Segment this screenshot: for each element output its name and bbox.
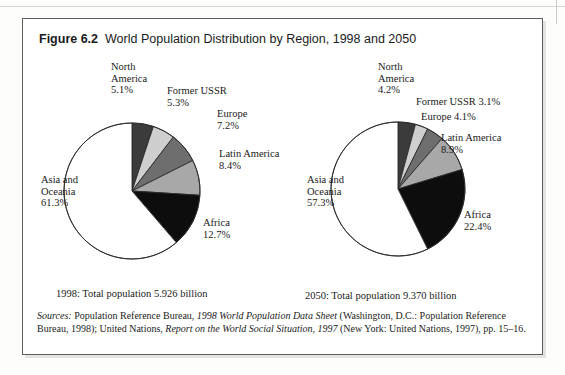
label-asia-oceania-2050: Asia and Oceania 57.3% [307, 174, 344, 209]
charts-container: North America 5.1% Former USSR 5.3% Euro… [23, 19, 544, 356]
label-africa-2050: Africa 22.4% [464, 209, 491, 232]
label-north-america-2050: North America 4.2% [378, 61, 414, 96]
source-part3: (New York: United Nations, 1997), pp. 15… [337, 323, 525, 334]
source-note: Sources: Population Reference Bureau, 19… [37, 309, 533, 336]
label-north-america-1998: North America 5.1% [111, 61, 147, 96]
label-latin-america-1998: Latin America 8.4% [219, 148, 279, 171]
label-former-ussr-2050: Former USSR 3.1% [416, 96, 500, 108]
figure-frame: Figure 6.2World Population Distribution … [22, 18, 543, 355]
label-europe-1998: Europe 7.2% [217, 108, 247, 131]
source-part1: Population Reference Bureau, [72, 310, 197, 321]
label-latin-america-2050: Latin America 8.9% [441, 132, 501, 155]
pie-charts-svg [23, 19, 544, 356]
scan-artifact-line-right [556, 0, 557, 24]
source-italic1: 1998 World Population Data Sheet [197, 310, 337, 321]
pie-chart-1998 [64, 123, 200, 259]
source-italic2: Report on the World Social Situation, 19… [165, 323, 337, 334]
caption-1998: 1998: Total population 5.926 billion [56, 288, 208, 299]
label-asia-oceania-1998: Asia and Oceania 61.3% [41, 174, 78, 209]
label-former-ussr-1998: Former USSR 5.3% [167, 85, 227, 108]
source-prefix: Sources: [37, 310, 72, 321]
figure-page: Figure 6.2World Population Distribution … [0, 0, 565, 375]
label-africa-1998: Africa 12.7% [203, 217, 230, 240]
label-europe-2050: Europe 4.1% [421, 111, 476, 123]
caption-2050: 2050: Total population 9.370 billion [305, 290, 457, 301]
scan-artifact-line-top [0, 6, 565, 7]
